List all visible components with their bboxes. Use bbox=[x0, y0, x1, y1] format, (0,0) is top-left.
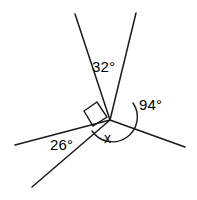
angle-label-26: 26° bbox=[50, 137, 73, 152]
angle-label-94: 94° bbox=[139, 97, 162, 112]
angle-label-x: x bbox=[104, 131, 111, 145]
ray-right bbox=[110, 120, 185, 147]
geometry-canvas bbox=[0, 0, 197, 200]
angle-diagram-figure: 32° 94° 26° x bbox=[0, 0, 197, 200]
angle-label-32: 32° bbox=[92, 59, 115, 74]
